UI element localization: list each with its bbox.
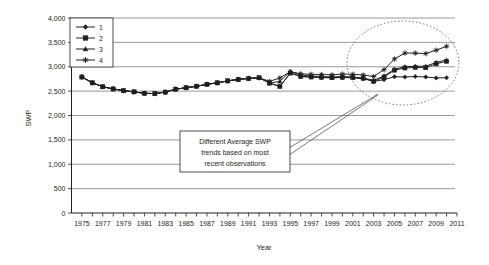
data-point-marker bbox=[298, 71, 303, 76]
annotation-callout-text: Different Average SWPtrends based on mos… bbox=[199, 138, 271, 167]
data-point-marker bbox=[413, 51, 418, 56]
data-point-marker bbox=[288, 69, 293, 74]
data-point-marker bbox=[392, 56, 397, 61]
x-tick-label: 1981 bbox=[137, 220, 153, 227]
data-point-marker bbox=[131, 89, 136, 94]
data-point-marker bbox=[246, 76, 251, 81]
y-tick-label: 0 bbox=[62, 210, 66, 217]
data-point-marker bbox=[371, 74, 376, 79]
data-point-marker bbox=[90, 80, 95, 85]
data-point-marker bbox=[100, 84, 105, 89]
x-tick-label: 1993 bbox=[262, 220, 278, 227]
chart-container: 4,0003,5003,0002,5002,0001,5001,0005000 … bbox=[0, 0, 489, 265]
x-tick-label: 1997 bbox=[303, 220, 319, 227]
data-point-marker bbox=[111, 86, 116, 91]
data-point-marker bbox=[152, 91, 157, 96]
data-point-marker bbox=[319, 72, 324, 77]
legend-label-4: 4 bbox=[99, 57, 103, 64]
data-point-marker bbox=[79, 74, 84, 79]
y-tick-label: 4,000 bbox=[48, 15, 66, 22]
x-tick-label: 2003 bbox=[366, 220, 382, 227]
data-point-marker bbox=[402, 51, 407, 56]
data-point-marker bbox=[194, 84, 199, 89]
data-point-marker bbox=[309, 72, 314, 77]
legend-label-3: 3 bbox=[99, 46, 103, 53]
x-tick-label: 1975 bbox=[74, 220, 90, 227]
data-point-marker bbox=[329, 72, 334, 77]
data-point-marker bbox=[142, 91, 147, 96]
x-axis-title: Year bbox=[256, 243, 272, 252]
y-tick-label: 500 bbox=[54, 185, 66, 192]
data-point-marker bbox=[184, 85, 189, 90]
data-point-marker bbox=[444, 44, 449, 49]
data-point-marker bbox=[267, 79, 272, 84]
data-point-marker bbox=[361, 72, 366, 77]
y-tick-label: 1,500 bbox=[48, 136, 66, 143]
data-point-marker bbox=[350, 72, 355, 77]
swp-trend-line-chart: 4,0003,5003,0002,5002,0001,5001,0005000 … bbox=[0, 0, 489, 265]
x-tick-label: 1983 bbox=[157, 220, 173, 227]
data-point-marker bbox=[215, 80, 220, 85]
data-point-marker bbox=[83, 57, 89, 63]
x-tick-label: 1989 bbox=[220, 220, 236, 227]
data-point-marker bbox=[173, 87, 178, 92]
x-tick-label: 1977 bbox=[95, 220, 111, 227]
legend-label-1: 1 bbox=[99, 24, 103, 31]
data-point-marker bbox=[83, 36, 88, 41]
y-tick-label: 2,000 bbox=[48, 112, 66, 119]
x-tick-label: 1995 bbox=[283, 220, 299, 227]
y-tick-label: 3,000 bbox=[48, 63, 66, 70]
x-tick-label: 2009 bbox=[428, 220, 444, 227]
x-tick-label: 2001 bbox=[345, 220, 361, 227]
x-tick-label: 1987 bbox=[199, 220, 215, 227]
x-tick-label: 2005 bbox=[387, 220, 403, 227]
data-point-marker bbox=[225, 78, 230, 83]
x-tick-label: 2011 bbox=[449, 220, 464, 227]
data-point-marker bbox=[256, 75, 261, 80]
annotation-line: trends based on most bbox=[201, 149, 268, 156]
data-point-marker bbox=[163, 90, 168, 95]
data-point-marker bbox=[434, 48, 439, 53]
y-tick-label: 1,000 bbox=[48, 161, 66, 168]
y-axis-title: SWP bbox=[24, 109, 33, 126]
data-point-marker bbox=[278, 84, 282, 88]
data-point-marker bbox=[236, 77, 241, 82]
x-tick-label: 1991 bbox=[241, 220, 257, 227]
data-point-marker bbox=[340, 71, 345, 76]
x-tick-label: 1979 bbox=[116, 220, 132, 227]
data-point-marker bbox=[423, 51, 428, 56]
x-tick-label: 2007 bbox=[408, 220, 424, 227]
y-tick-label: 2,500 bbox=[48, 88, 66, 95]
y-tick-label: 3,500 bbox=[48, 39, 66, 46]
data-point-marker bbox=[121, 88, 126, 93]
x-tick-label: 1999 bbox=[324, 220, 340, 227]
annotation-line: Different Average SWP bbox=[199, 138, 271, 146]
legend-label-2: 2 bbox=[99, 35, 103, 42]
data-point-marker bbox=[204, 82, 209, 87]
annotation-line: recent observations bbox=[204, 160, 266, 167]
x-tick-label: 1985 bbox=[178, 220, 194, 227]
data-point-marker bbox=[381, 67, 386, 72]
data-point-marker bbox=[277, 75, 282, 80]
